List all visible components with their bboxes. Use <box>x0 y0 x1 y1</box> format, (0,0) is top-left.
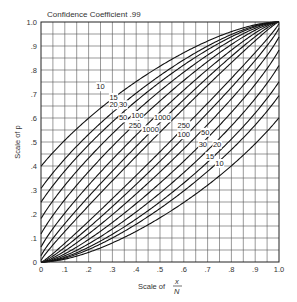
x-tick-label: .7 <box>204 265 210 274</box>
x-tick-label: .1 <box>62 265 68 274</box>
curve-label: 20 <box>109 100 117 109</box>
y-tick-label: .8 <box>31 66 37 75</box>
y-tick-label: .3 <box>31 186 37 195</box>
curve-label: 1000 <box>154 113 171 122</box>
curve-label: 10 <box>215 159 223 168</box>
confidence-chart: Confidence Coefficient .99 0.1.2.3.4.5.6… <box>0 0 297 302</box>
y-axis-label: Scale of p <box>13 125 22 158</box>
x-tick-labels: 0.1.2.3.4.5.6.7.8.91.0 <box>39 265 284 274</box>
x-tick-label: 1.0 <box>274 265 284 274</box>
y-tick-labels: 0.1.2.3.4.5.6.7.8.91.0 <box>27 18 37 267</box>
y-tick-label: .7 <box>31 90 37 99</box>
y-tick-label: .5 <box>31 138 37 147</box>
y-tick-label: 1.0 <box>27 18 37 27</box>
x-tick-label: 0 <box>39 265 43 274</box>
curve-label: 250 <box>129 121 142 130</box>
x-tick-label: .4 <box>133 265 139 274</box>
curve-label: 10 <box>96 82 104 91</box>
curve-label: 20 <box>213 140 221 149</box>
x-tick-label: .2 <box>85 265 91 274</box>
x-axis-label-denominator: N <box>174 287 180 296</box>
y-tick-label: .1 <box>31 234 37 243</box>
curve-label: 15 <box>206 152 214 161</box>
curve-label: 100 <box>131 111 144 120</box>
y-tick-label: .6 <box>31 114 37 123</box>
curve-label: 100 <box>178 130 191 139</box>
curve-label: 30 <box>119 100 127 109</box>
y-tick-label: .2 <box>31 210 37 219</box>
curve-label: 250 <box>178 121 191 130</box>
x-tick-label: .5 <box>157 265 163 274</box>
curve-label: 30 <box>199 140 207 149</box>
x-tick-label: .9 <box>252 265 258 274</box>
x-axis-label: Scale of x N <box>138 277 182 296</box>
x-axis-label-numerator: x <box>174 277 179 286</box>
x-tick-label: .6 <box>181 265 187 274</box>
x-tick-label: .3 <box>109 265 115 274</box>
chart-title: Confidence Coefficient .99 <box>47 10 141 19</box>
x-axis-label-prefix: Scale of <box>138 282 166 291</box>
grid <box>41 22 279 262</box>
curve-label: 1000 <box>142 125 159 134</box>
x-tick-label: .8 <box>228 265 234 274</box>
y-tick-label: .9 <box>31 42 37 51</box>
curve-label: 50 <box>201 128 209 137</box>
y-tick-label: 0 <box>33 258 37 267</box>
y-tick-label: .4 <box>31 162 37 171</box>
curve-label: 50 <box>119 113 127 122</box>
